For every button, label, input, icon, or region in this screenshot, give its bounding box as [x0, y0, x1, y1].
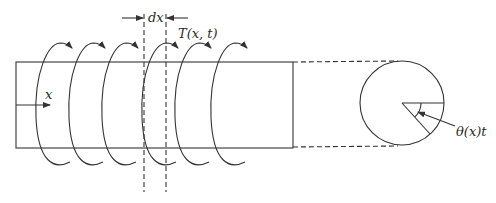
shaft-body: [16, 62, 293, 148]
torque-arrow-1: [36, 43, 72, 165]
torque-arrow-3: [102, 43, 138, 165]
projection-line-top: [293, 61, 398, 62]
projection-line-bottom: [293, 146, 398, 147]
dx-label: dx: [148, 10, 164, 25]
diagram-svg: x dx T(x, t) θ(x)t: [0, 0, 496, 203]
torque-arrows: [36, 43, 247, 165]
angle-pointer-arrow: [418, 112, 455, 126]
torque-arrow-2: [69, 43, 105, 165]
torque-label: T(x, t): [178, 26, 218, 41]
rotated-radius: [402, 103, 430, 134]
x-axis-label: x: [45, 87, 53, 102]
torque-arrow-6: [211, 43, 247, 165]
torque-arrow-4: [142, 43, 178, 165]
torque-arrow-5: [175, 43, 211, 165]
twist-angle-label: θ(x)t: [456, 124, 487, 139]
angle-arc: [415, 103, 421, 117]
diagram-canvas: x dx T(x, t) θ(x)t: [0, 0, 496, 203]
